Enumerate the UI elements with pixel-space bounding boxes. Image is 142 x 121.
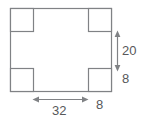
dimension-arrow-horizontal-32 [33,97,89,103]
notch-top-left-square [11,9,34,32]
notch-bottom-right-square [89,69,112,92]
geometry-diagram: 20 8 32 8 [0,0,142,121]
notch-top-right-square [89,9,112,32]
dimension-label-height-20: 20 [122,44,136,57]
dimension-label-height-8: 8 [122,72,129,85]
dimension-label-width-8: 8 [96,98,103,111]
notched-rectangle-figure [0,0,142,121]
dimension-label-width-32: 32 [52,104,66,117]
notch-bottom-left-square [11,69,34,92]
dimension-arrow-vertical-20 [115,31,121,72]
